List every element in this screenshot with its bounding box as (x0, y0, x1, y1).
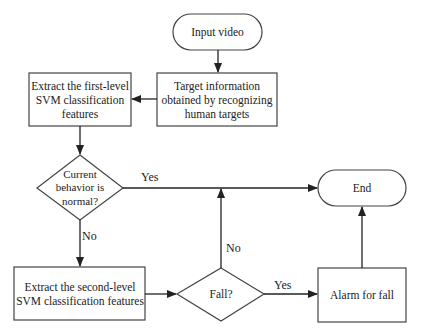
node-input-video: Input video (173, 14, 262, 50)
edge-label-fall-no: No (226, 241, 241, 256)
edge-label-normal-no: No (82, 229, 97, 244)
node-extract-first: Extract the first-level SVM classificati… (30, 73, 130, 126)
node-alarm: Alarm for fall (318, 268, 406, 322)
node-normal-decision: Current behavior is normal? (52, 166, 108, 210)
node-target-info: Target information obtained by recognizi… (160, 73, 274, 126)
node-end: End (318, 170, 406, 206)
edge-label-normal-yes: Yes (141, 170, 158, 185)
edge-label-fall-yes: Yes (274, 278, 291, 293)
node-fall-decision: Fall? (190, 282, 252, 306)
node-extract-second: Extract the second-level SVM classificat… (16, 267, 144, 320)
